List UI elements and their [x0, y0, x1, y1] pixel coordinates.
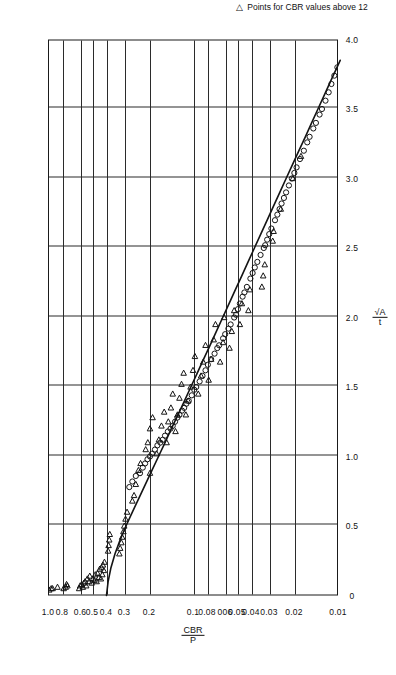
data-point-triangle	[147, 425, 153, 430]
y-tick-label: 006	[218, 606, 233, 616]
data-point-triangle	[130, 497, 136, 502]
data-point-triangle	[106, 542, 112, 547]
x-tick-label: 2.0	[346, 312, 358, 322]
data-markers	[47, 64, 340, 591]
data-point-circle	[279, 200, 284, 205]
data-point-triangle	[105, 548, 111, 553]
data-point-triangle	[221, 314, 227, 319]
data-point-triangle	[237, 321, 243, 326]
y-tick-label: 0.2	[143, 606, 155, 616]
data-point-triangle	[87, 573, 93, 578]
data-point-circle	[326, 89, 331, 94]
data-point-triangle	[107, 531, 113, 536]
data-point-circle	[203, 367, 208, 372]
x-tick-label: 0.5	[346, 521, 358, 531]
data-point-triangle	[124, 509, 130, 514]
legend: Legend ○Points for CBR values below 12 △…	[236, 0, 367, 14]
data-point-circle	[292, 170, 297, 175]
data-point-circle	[281, 195, 286, 200]
y-axis-title-numerator: CBR	[181, 625, 204, 635]
data-point-circle	[305, 139, 310, 144]
data-point-circle	[248, 275, 253, 280]
data-point-triangle	[150, 414, 156, 419]
x-axis-title: √A t	[373, 307, 388, 326]
data-point-circle	[317, 111, 322, 116]
x-tick-label: 3.0	[346, 173, 358, 183]
x-axis-title-numerator: √A	[373, 307, 388, 317]
data-point-circle	[263, 242, 268, 247]
data-point-circle	[127, 484, 132, 489]
data-point-circle	[311, 125, 316, 130]
data-point-triangle	[166, 418, 172, 423]
data-point-circle	[197, 378, 202, 383]
legend-item-triangle: △Points for CBR values above 12	[236, 1, 367, 14]
data-point-triangle	[181, 370, 187, 375]
data-point-triangle	[170, 390, 176, 395]
y-tick-label: 0.02	[286, 606, 303, 616]
data-point-circle	[286, 182, 291, 187]
x-tick-label: 1.5	[346, 382, 358, 392]
data-point-circle	[130, 478, 135, 483]
y-tick-label: 0.03	[260, 606, 277, 616]
data-point-triangle	[161, 409, 167, 414]
x-tick-label: 3.5	[346, 104, 358, 114]
x-tick-label: 2.5	[346, 243, 358, 253]
triangle-marker-icon: △	[236, 1, 247, 14]
x-tick-label: 1.0	[346, 451, 358, 461]
data-point-triangle	[213, 321, 219, 326]
data-point-circle	[307, 134, 312, 139]
data-point-circle	[252, 264, 257, 269]
legend-item-triangle-label: Points for CBR values above 12	[247, 2, 367, 12]
data-point-circle	[250, 270, 255, 275]
data-point-triangle	[102, 559, 108, 564]
y-tick-label: 0.8	[56, 606, 68, 616]
x-tick-label: 0	[350, 590, 355, 600]
data-point-circle	[294, 164, 299, 169]
data-point-circle	[258, 252, 263, 257]
data-point-triangle	[246, 307, 252, 312]
x-axis-title-denominator: t	[373, 318, 388, 327]
data-point-triangle	[159, 422, 165, 427]
data-point-triangle	[206, 377, 212, 382]
data-point-circle	[284, 189, 289, 194]
data-point-circle	[223, 331, 228, 336]
data-point-triangle	[177, 395, 183, 400]
data-point-circle	[265, 237, 270, 242]
y-tick-label: 0.6	[74, 606, 86, 616]
data-point-triangle	[123, 516, 129, 521]
data-point-circle	[272, 217, 277, 222]
data-point-circle	[323, 98, 328, 103]
data-point-triangle	[55, 584, 61, 589]
data-point-triangle	[203, 342, 209, 347]
data-point-triangle	[131, 492, 137, 497]
y-tick-label: 0.1	[187, 606, 199, 616]
data-point-circle	[275, 212, 280, 217]
data-point-triangle	[259, 283, 265, 288]
data-point-triangle	[270, 238, 276, 243]
data-point-circle	[228, 321, 233, 326]
data-point-triangle	[192, 353, 198, 358]
data-point-circle	[189, 392, 194, 397]
data-point-triangle	[143, 446, 149, 451]
y-axis-title-denominator: P	[181, 636, 204, 645]
data-point-circle	[313, 120, 318, 125]
y-tick-label: 0.4	[99, 606, 111, 616]
y-tick-label: 1.0	[42, 606, 54, 616]
data-point-circle	[242, 289, 247, 294]
data-point-triangle	[168, 404, 174, 409]
data-point-triangle	[106, 536, 112, 541]
data-point-triangle	[227, 345, 233, 350]
data-point-triangle	[117, 550, 123, 555]
data-point-circle	[301, 148, 306, 153]
data-point-triangle	[179, 381, 185, 386]
y-tick-label: 0.5	[85, 606, 97, 616]
data-point-circle	[332, 73, 337, 78]
data-point-circle	[255, 259, 260, 264]
y-axis-title: CBR P	[181, 625, 204, 644]
x-tick-label: 4.0	[346, 34, 358, 44]
data-point-triangle	[190, 367, 196, 372]
y-tick-label: 0.08	[198, 606, 215, 616]
data-point-triangle	[260, 272, 266, 277]
data-point-triangle	[262, 261, 268, 266]
data-point-circle	[212, 351, 217, 356]
